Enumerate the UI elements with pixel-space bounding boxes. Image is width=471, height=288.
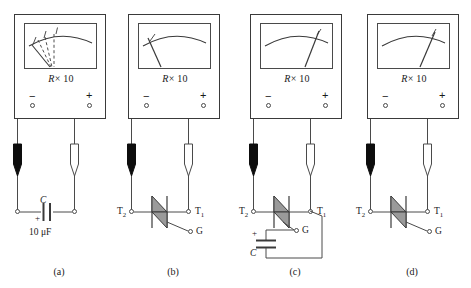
black-probe-d xyxy=(365,143,376,177)
negative-sign-a: − xyxy=(29,91,35,102)
negative-terminal-d[interactable] xyxy=(383,103,388,108)
lead-positive-lower-d xyxy=(427,176,428,212)
lead-positive-upper-c xyxy=(310,119,311,145)
white-probe-c xyxy=(305,143,316,177)
panel-caption-d: (d) xyxy=(353,266,471,277)
positive-terminal-a[interactable] xyxy=(87,103,92,108)
panel-caption-c: (c) xyxy=(236,266,354,277)
lead-negative-upper-b xyxy=(131,119,132,145)
lead-positive-upper-b xyxy=(188,119,189,145)
negative-terminal-a[interactable] xyxy=(30,103,35,108)
terminal-t1-label-c: T1 xyxy=(317,207,326,219)
panel-caption-a: (a) xyxy=(0,266,118,277)
node-left-a xyxy=(15,209,20,214)
meter-scale-window-a xyxy=(24,23,97,69)
multimeter-d: R× 10 − + xyxy=(367,14,459,119)
black-probe-a xyxy=(12,143,23,177)
positive-sign-a: + xyxy=(86,90,92,101)
terminal-t2-label-c: T2 xyxy=(239,207,248,219)
gate-label-c: G xyxy=(302,226,309,236)
white-probe-a xyxy=(69,143,80,177)
lead-negative-upper-d xyxy=(370,119,371,145)
terminal-t2-node-c xyxy=(251,209,256,214)
capacitor-polarity-c: + xyxy=(252,229,257,238)
meter-range-label-a: R× 10 xyxy=(15,73,107,84)
capacitor-polarity-a: + xyxy=(35,214,40,223)
terminal-t1-node-b xyxy=(186,209,191,214)
lead-negative-lower-a xyxy=(17,176,18,212)
panel-b: R× 10 − + xyxy=(114,0,232,288)
positive-terminal-c[interactable] xyxy=(323,103,328,108)
terminal-t1-label-d: T1 xyxy=(434,207,443,219)
lead-positive-lower-b xyxy=(188,176,189,212)
white-probe-d xyxy=(422,143,433,177)
meter-scale-window-b xyxy=(138,23,211,69)
terminal-t2-label-d: T2 xyxy=(356,207,365,219)
gate-label-d: G xyxy=(435,227,442,237)
panel-a: R× 10 − + xyxy=(0,0,118,288)
terminal-t2-label-b: T2 xyxy=(117,207,126,219)
terminal-t1-node-c xyxy=(308,209,313,214)
gate-node-b xyxy=(188,229,193,234)
multimeter-b: R× 10 − + xyxy=(128,14,220,119)
meter-range-label-d: R× 10 xyxy=(368,73,460,84)
gate-label-b: G xyxy=(196,227,203,237)
lead-negative-upper-c xyxy=(253,119,254,145)
negative-sign-b: − xyxy=(143,91,149,102)
meter-scale-window-c xyxy=(260,23,333,69)
terminal-t2-node-d xyxy=(368,209,373,214)
black-probe-c xyxy=(248,143,259,177)
terminal-t2-node-b xyxy=(129,209,134,214)
negative-terminal-c[interactable] xyxy=(266,103,271,108)
lead-negative-upper-a xyxy=(17,119,18,145)
positive-terminal-b[interactable] xyxy=(201,103,206,108)
positive-sign-c: + xyxy=(322,90,328,101)
terminal-t1-node-d xyxy=(425,209,430,214)
meter-range-label-c: R× 10 xyxy=(251,73,343,84)
gate-node-d xyxy=(427,229,432,234)
black-probe-b xyxy=(126,143,137,177)
meter-scale-window-d xyxy=(377,23,450,69)
terminal-t1-label-b: T1 xyxy=(195,207,204,219)
multimeter-c: R× 10 − + xyxy=(250,14,342,119)
white-probe-b xyxy=(183,143,194,177)
gate-node-c xyxy=(294,228,299,233)
multimeter-a: R× 10 − + xyxy=(14,14,106,119)
lead-negative-lower-c xyxy=(253,176,254,212)
meter-range-label-b: R× 10 xyxy=(129,73,221,84)
lead-positive-upper-a xyxy=(74,119,75,145)
lead-negative-lower-b xyxy=(131,176,132,212)
negative-terminal-b[interactable] xyxy=(144,103,149,108)
node-right-a xyxy=(72,209,77,214)
capacitor-label-c: C xyxy=(250,249,256,259)
panel-d: R× 10 − + xyxy=(353,0,471,288)
triac-test-figure: R× 10 − + xyxy=(0,0,471,288)
positive-sign-d: + xyxy=(439,90,445,101)
negative-sign-d: − xyxy=(382,91,388,102)
panel-caption-b: (b) xyxy=(114,266,232,277)
lead-positive-lower-c xyxy=(310,176,311,212)
negative-sign-c: − xyxy=(265,91,271,102)
lead-positive-lower-a xyxy=(74,176,75,212)
positive-terminal-d[interactable] xyxy=(440,103,445,108)
positive-sign-b: + xyxy=(200,90,206,101)
lead-positive-upper-d xyxy=(427,119,428,145)
panel-c: R× 10 − + xyxy=(236,0,354,288)
capacitor-value-a: 10 μF xyxy=(29,228,51,238)
lead-negative-lower-d xyxy=(370,176,371,212)
capacitor-label-a: C xyxy=(40,196,46,206)
